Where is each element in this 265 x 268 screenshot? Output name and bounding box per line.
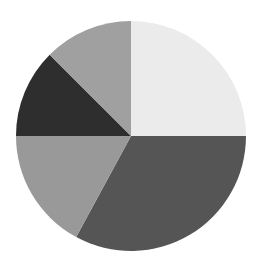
pie-chart	[0, 0, 265, 268]
pie-slice-1	[131, 21, 246, 136]
pie-slices	[16, 21, 246, 251]
